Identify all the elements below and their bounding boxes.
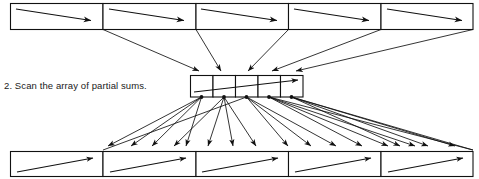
gather-flow-0	[103, 30, 199, 72]
gather-flow-4	[296, 30, 473, 72]
scatter-flow-0-a	[108, 97, 202, 146]
scatter-flow-3-b	[269, 97, 388, 146]
figure-caption: 2. Scan the array of partial sums.	[4, 80, 147, 92]
scatter-flow-4-a	[292, 97, 401, 146]
partial-sums-cell-0	[191, 76, 214, 98]
bottom-block-2	[196, 152, 289, 177]
scatter-flows-group	[103, 97, 473, 150]
gather-flow-2	[248, 30, 289, 72]
partial-sums-array-group	[191, 76, 304, 98]
scatter-flow-4-b	[292, 97, 429, 146]
bottom-blocks-group	[11, 152, 474, 177]
bottom-block-3	[289, 152, 382, 177]
top-block-4	[381, 4, 473, 30]
top-blocks-group	[11, 4, 474, 30]
partial-sums-cell-4	[281, 76, 304, 98]
partial-sums-cell-3	[258, 76, 281, 98]
top-block-0	[11, 4, 104, 30]
scatter-flow-0-b	[131, 97, 202, 146]
gather-flow-1	[196, 30, 221, 72]
top-block-1	[103, 4, 196, 30]
scatter-flow-2-a	[247, 97, 289, 146]
scan-partial-sums-figure: 2. Scan the array of partial sums.	[0, 0, 479, 179]
partial-sums-cell-1	[213, 76, 236, 98]
scatter-flow-sweep-1	[269, 97, 473, 150]
scatter-flow-2-b	[247, 97, 312, 146]
gather-flow-3	[272, 30, 381, 72]
top-block-3	[289, 4, 382, 30]
scatter-flow-sweep-2	[103, 97, 247, 150]
bottom-block-4	[381, 152, 473, 177]
bottom-block-1	[103, 152, 196, 177]
gather-flows-group	[103, 30, 473, 72]
bottom-block-0	[11, 152, 104, 177]
top-block-2	[196, 4, 289, 30]
